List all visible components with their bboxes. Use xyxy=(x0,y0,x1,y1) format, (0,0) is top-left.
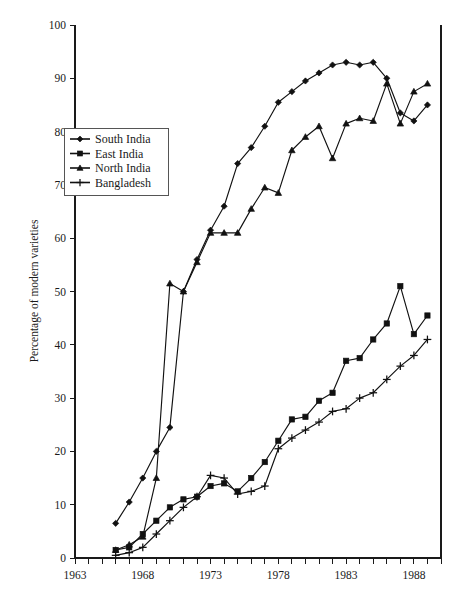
data-point-square xyxy=(357,355,362,360)
data-point-square xyxy=(303,414,308,419)
chart-figure: 0102030405060708090100 19631968197319781… xyxy=(0,0,454,602)
data-point-square xyxy=(411,332,416,337)
data-point-square xyxy=(343,358,348,363)
legend-item-label: South India xyxy=(95,132,151,146)
data-point-square xyxy=(316,398,321,403)
x-axis-tick-label: 1973 xyxy=(199,569,222,581)
data-point-square xyxy=(208,483,213,488)
data-point-square xyxy=(181,497,186,502)
y-axis-tick-label: 90 xyxy=(55,72,67,84)
data-point-square xyxy=(289,417,294,422)
data-point-square xyxy=(384,321,389,326)
y-axis-tick-label: 0 xyxy=(60,552,66,564)
legend-item-label: East India xyxy=(95,147,144,161)
data-point-square xyxy=(330,390,335,395)
data-point-square xyxy=(167,505,172,510)
data-point-square xyxy=(249,475,254,480)
data-point-square xyxy=(425,313,430,318)
y-axis-tick-label: 10 xyxy=(55,499,67,511)
chart-legend: South IndiaEast IndiaNorth IndiaBanglade… xyxy=(64,128,168,195)
data-point-square xyxy=(78,151,83,156)
data-point-square xyxy=(371,337,376,342)
legend-item-label: Bangladesh xyxy=(95,176,151,190)
data-point-square xyxy=(154,518,159,523)
y-axis-tick-label: 30 xyxy=(55,392,67,404)
data-point-square xyxy=(262,459,267,464)
line-chart: 0102030405060708090100 19631968197319781… xyxy=(0,0,454,602)
y-axis-tick-label: 50 xyxy=(55,286,67,298)
x-axis-tick-label: 1988 xyxy=(402,569,425,581)
y-axis-tick-label: 40 xyxy=(55,339,67,351)
x-axis-tick-label: 1978 xyxy=(267,569,290,581)
chart-background xyxy=(0,0,454,602)
x-axis-tick-label: 1983 xyxy=(335,569,358,581)
y-axis-title: Percentage of modern varieties xyxy=(28,219,41,362)
y-axis-tick-label: 60 xyxy=(55,232,67,244)
x-axis-tick-label: 1963 xyxy=(64,569,87,581)
data-point-square xyxy=(276,438,281,443)
y-axis-tick-label: 20 xyxy=(55,445,67,457)
y-axis-tick-label: 100 xyxy=(49,19,67,31)
x-axis-tick-label: 1968 xyxy=(131,569,154,581)
legend-item-label: North India xyxy=(95,161,151,175)
data-point-square xyxy=(398,284,403,289)
